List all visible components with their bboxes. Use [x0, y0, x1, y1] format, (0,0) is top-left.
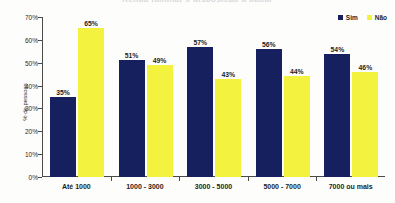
y-tick-label: 50%	[12, 59, 38, 66]
y-tick-label: 70%	[12, 14, 38, 21]
bar-nao[interactable]	[352, 72, 378, 177]
bar-sim[interactable]	[187, 47, 213, 177]
chart-page: Renda familiar x disposicao a pagar Sim …	[0, 0, 395, 203]
y-tick-label: 0%	[12, 174, 38, 181]
bar-nao[interactable]	[215, 79, 241, 177]
bar-nao[interactable]	[147, 65, 173, 177]
bar-value-label: 49%	[145, 57, 175, 64]
x-tick-mark	[316, 177, 317, 181]
y-tick-label: 30%	[12, 105, 38, 112]
bar-sim[interactable]	[324, 54, 350, 177]
chart-title: Renda familiar x disposicao a pagar	[0, 0, 395, 2]
bar-group: 54%46%7000 ou mais	[316, 17, 385, 177]
bar-group: 56%44%5000 - 7000	[248, 17, 317, 177]
bar-value-label: 46%	[350, 64, 380, 71]
y-tick-label: 60%	[12, 36, 38, 43]
y-tick-label: 40%	[12, 82, 38, 89]
bar-value-label: 56%	[254, 41, 284, 48]
bar-sim[interactable]	[119, 60, 145, 177]
y-tick-mark	[38, 177, 42, 178]
bar-group: 35%65%Até 1000	[42, 17, 111, 177]
bar-value-label: 57%	[185, 39, 215, 46]
bar-group: 57%43%3000 - 5000	[179, 17, 248, 177]
plot-area: 0%10%20%30%40%50%60%70% 35%65%Até 100051…	[42, 17, 385, 177]
x-tick-mark	[179, 177, 180, 181]
bar-group: 51%49%1000 - 3000	[111, 17, 180, 177]
bar-value-label: 43%	[213, 71, 243, 78]
bar-sim[interactable]	[256, 49, 282, 177]
bar-nao[interactable]	[284, 76, 310, 177]
y-tick-label: 10%	[12, 151, 38, 158]
x-category-label: 7000 ou mais	[311, 183, 391, 190]
bar-value-label: 44%	[282, 68, 312, 75]
x-tick-mark	[248, 177, 249, 181]
bar-value-label: 65%	[76, 20, 106, 27]
bar-nao[interactable]	[78, 28, 104, 177]
bar-value-label: 51%	[117, 52, 147, 59]
y-tick-label: 20%	[12, 128, 38, 135]
bar-value-label: 35%	[48, 89, 78, 96]
bar-sim[interactable]	[50, 97, 76, 177]
bar-value-label: 54%	[322, 46, 352, 53]
x-tick-mark	[111, 177, 112, 181]
